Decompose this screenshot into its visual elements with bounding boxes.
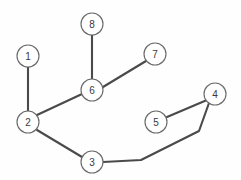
node-label-8: 8 [89, 19, 95, 30]
nodes-layer: 12345678 [17, 13, 226, 173]
node-label-7: 7 [152, 49, 158, 60]
graph-edge-2-6 [37, 94, 82, 115]
graph-node-6[interactable]: 6 [81, 79, 103, 101]
graph-node-4[interactable]: 4 [204, 83, 226, 105]
graph-node-2[interactable]: 2 [17, 111, 39, 133]
graph-node-3[interactable]: 3 [81, 151, 103, 173]
graph-edge-2-3 [37, 130, 82, 157]
edges-layer [28, 35, 209, 162]
graph-edge-6-7 [103, 61, 146, 87]
graph-svg: 12345678 [0, 0, 241, 180]
node-label-1: 1 [25, 51, 31, 62]
graph-node-8[interactable]: 8 [81, 13, 103, 35]
node-label-3: 3 [89, 157, 95, 168]
graph-node-1[interactable]: 1 [17, 45, 39, 67]
graph-canvas: 12345678 [0, 0, 241, 180]
node-label-6: 6 [89, 85, 95, 96]
node-label-5: 5 [153, 117, 159, 128]
graph-node-7[interactable]: 7 [144, 43, 166, 65]
graph-node-5[interactable]: 5 [145, 111, 167, 133]
node-label-2: 2 [25, 117, 31, 128]
graph-edge-5-4 [167, 100, 207, 117]
node-label-4: 4 [212, 89, 218, 100]
